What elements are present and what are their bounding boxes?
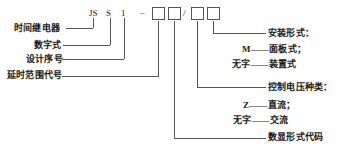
leader-time-relay-vertical	[93, 18, 94, 28]
code-box-4	[207, 7, 220, 20]
leader-control-voltage-horizontal	[197, 87, 266, 88]
group-mounting-option-2-code: 无字	[232, 59, 250, 69]
leader-mounting-vertical	[213, 21, 214, 33]
label-time-relay: 时间继电器	[14, 23, 60, 34]
code-dash: –	[140, 7, 145, 18]
group-control-voltage-heading: 控制电压种类：	[268, 82, 332, 93]
leader-delay-range-vertical	[158, 21, 159, 76]
code-slash: /	[183, 8, 186, 19]
code-box-1	[152, 7, 165, 20]
group-control-voltage-option-1-dash: ——	[249, 100, 267, 110]
group-control-voltage-option-2: 无字——交流	[233, 115, 288, 126]
group-control-voltage-option-1-meaning: 直流；	[268, 100, 296, 110]
group-control-voltage-option-1: Z——直流；	[243, 100, 295, 111]
leader-delay-range-horizontal	[62, 76, 159, 77]
group-control-voltage-option-2-meaning: 交流	[270, 115, 288, 125]
group-mounting-option-1-meaning: 面板式；	[269, 44, 306, 54]
group-mounting-option-2-dash: ——	[250, 59, 268, 69]
model-designation-diagram: JS S 1 – / 时间继电器 数字式 设计序号 延时范围代号 安装形式： M…	[0, 0, 344, 153]
leader-digital-type-horizontal	[63, 45, 110, 46]
leader-digital-type-vertical	[110, 18, 111, 45]
leader-design-no-horizontal	[62, 59, 124, 60]
group-mounting-option-1-code: M	[242, 44, 251, 54]
group-display-code-heading: 数显形式代码	[268, 132, 323, 143]
group-control-voltage-option-2-code: 无字	[233, 115, 251, 125]
code-box-2	[168, 7, 181, 20]
leader-control-voltage-vertical	[197, 21, 198, 87]
group-mounting-option-1-dash: ——	[251, 44, 269, 54]
label-digital-type: 数字式	[34, 40, 62, 51]
leader-mounting-horizontal	[213, 33, 266, 34]
leader-design-no-vertical	[124, 18, 125, 59]
group-mounting-option-2-meaning: 装置式	[269, 59, 297, 69]
leader-time-relay-horizontal	[66, 28, 93, 29]
group-mounting-heading: 安装形式：	[268, 28, 314, 39]
code-box-3	[191, 7, 204, 20]
leader-display-code-horizontal	[174, 138, 266, 139]
group-mounting-option-1: M——面板式；	[242, 44, 306, 55]
label-delay-range: 延时范围代号	[7, 70, 62, 81]
leader-display-code-vertical	[174, 21, 175, 138]
group-mounting-option-2: 无字——装置式	[232, 59, 296, 70]
group-control-voltage-option-2-dash: ——	[251, 115, 269, 125]
label-design-no: 设计序号	[26, 54, 63, 65]
